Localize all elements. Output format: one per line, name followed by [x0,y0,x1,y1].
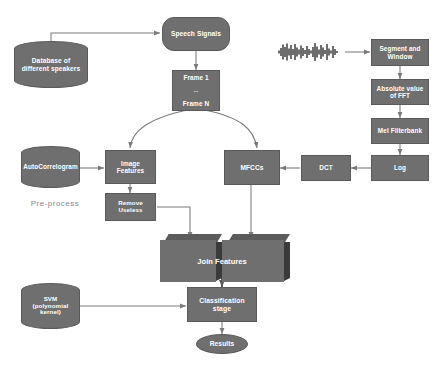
node-remove-useless-label: Remove Useless [109,200,152,214]
node-mel-filterbank[interactable]: Mel Filterbank [371,118,429,144]
node-autocorrelogram-label: AutoCorrelogram [23,163,77,170]
edge-frames-to-mfccs [205,110,257,148]
node-remove-useless[interactable]: Remove Useless [105,193,156,221]
edge-frames-to-imagefeatures [130,110,187,148]
node-mfccs[interactable]: MFCCs [224,150,280,185]
node-absolute-value-of-fft[interactable]: Absolute value of FFT [371,79,429,105]
node-frames-line-ellipsis: ... [194,88,199,94]
node-join-features[interactable]: Join Features [160,238,288,278]
audio-waveform-icon [278,41,344,63]
node-database[interactable]: Database of different speakers [14,41,88,88]
node-speech-signals-label: Speech Signals [171,30,221,37]
node-classification-stage[interactable]: Classification stage [187,287,257,322]
node-segment-and-window-label: Segment and Window [375,45,425,59]
node-log[interactable]: Log [371,155,429,181]
annotation-pre-process: Pre-process [17,196,93,212]
node-join-features-label-wrap: Join Features [160,240,284,282]
node-image-features[interactable]: Image Features [105,150,156,184]
node-autocorrelogram[interactable]: AutoCorrelogram [21,146,80,188]
node-mel-filterbank-label: Mel Filterbank [378,127,422,134]
node-results-label: Results [210,340,235,347]
node-frames-line-first: Frame 1 [183,74,208,81]
node-database-label: Database of different speakers [19,57,83,72]
node-frames-line-last: Frame N [183,100,209,107]
node-frames[interactable]: Frame 1 ... Frame N [172,70,220,111]
node-mfccs-label: MFCCs [240,164,263,171]
node-log-label: Log [394,164,406,171]
node-dct[interactable]: DCT [301,155,351,181]
node-speech-signals[interactable]: Speech Signals [162,17,230,51]
node-classification-stage-label: Classification stage [191,297,253,312]
node-absolute-value-of-fft-label: Absolute value of FFT [375,85,425,99]
edge-removeuseless-to-joinfeatures [157,207,190,238]
annotation-pre-process-label: Pre-process [31,200,80,209]
node-results[interactable]: Results [196,334,248,354]
edge-database-to-speech [51,33,160,42]
node-svm-line-3: kernel) [40,309,61,316]
node-image-features-label: Image Features [109,160,152,174]
node-dct-label: DCT [319,164,332,171]
flowchart-canvas: Database of different speakers Speech Si… [0,0,442,365]
node-segment-and-window[interactable]: Segment and Window [371,39,429,66]
node-join-features-label: Join Features [197,257,246,266]
node-svm[interactable]: SVM (polynomial kernel) [21,283,80,329]
